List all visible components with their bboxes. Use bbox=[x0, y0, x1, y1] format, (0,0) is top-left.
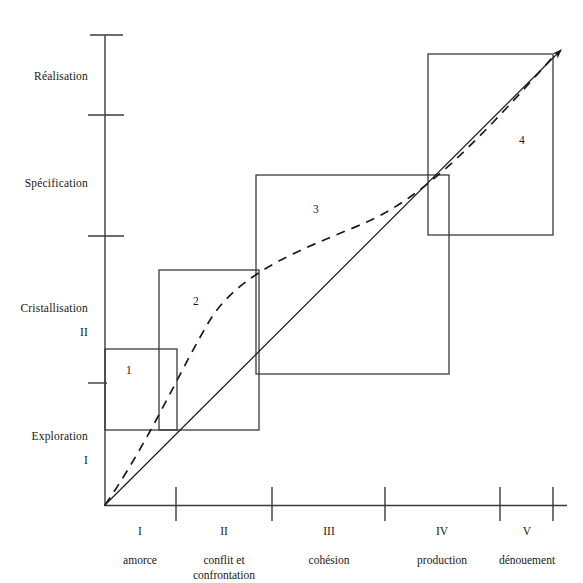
phase-box-4 bbox=[428, 54, 553, 235]
phase-box-3 bbox=[256, 175, 449, 374]
y-label-exploration: Exploration I bbox=[0, 418, 88, 490]
x-label-phase-2-text: conflit et confrontation bbox=[164, 553, 284, 582]
phase-box-1 bbox=[105, 349, 177, 430]
y-label-cristallisation-roman: II bbox=[0, 326, 88, 338]
y-label-realisation: Réalisation bbox=[0, 58, 88, 94]
x-label-phase-2: II conflit et confrontation bbox=[164, 510, 284, 583]
phase-boxes-group bbox=[105, 54, 553, 430]
y-label-realisation-text: Réalisation bbox=[34, 70, 88, 82]
diagonal-reference-line bbox=[105, 50, 561, 505]
y-label-cristallisation-text: Cristallisation bbox=[20, 302, 88, 314]
y-axis-group bbox=[88, 35, 124, 506]
x-label-phase-5-roman: V bbox=[467, 524, 583, 538]
x-label-phase-3-roman: III bbox=[269, 524, 389, 538]
y-label-exploration-roman: I bbox=[0, 454, 88, 466]
x-label-phase-5: V dénouement bbox=[467, 510, 583, 582]
y-label-specification: Spécification bbox=[0, 165, 88, 201]
x-label-phase-3-text: cohésion bbox=[269, 553, 389, 567]
phase-box-2-label: 2 bbox=[193, 295, 199, 307]
x-label-phase-5-text: dénouement bbox=[467, 553, 583, 567]
y-label-cristallisation: Cristallisation II bbox=[0, 290, 88, 362]
x-label-phase-2-roman: II bbox=[164, 524, 284, 538]
phase-box-2 bbox=[159, 270, 259, 430]
y-label-exploration-text: Exploration bbox=[32, 430, 89, 442]
phase-box-1-label: 1 bbox=[126, 364, 132, 376]
phase-box-4-label: 4 bbox=[519, 134, 525, 146]
y-label-specification-text: Spécification bbox=[25, 177, 88, 189]
x-label-phase-3: III cohésion bbox=[269, 510, 389, 582]
phase-box-3-label: 3 bbox=[313, 203, 319, 215]
